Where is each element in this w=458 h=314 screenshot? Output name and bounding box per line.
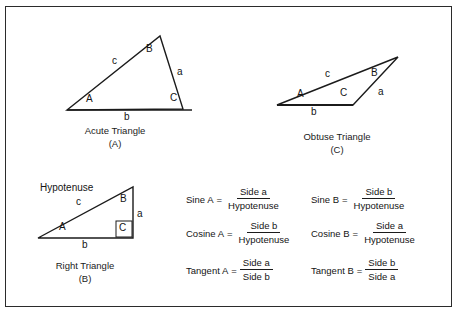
- formula-sine-b-denominator: Hypotenuse: [351, 199, 408, 212]
- formula-cosine-b-denominator: Hypotenuse: [361, 233, 418, 246]
- trigonometry-reference-figure: A B C c a b Acute Triangle (A) A B C c a…: [0, 0, 458, 314]
- formula-tangent-b-name: Tangent B: [311, 265, 354, 276]
- right-triangle-caption: Right Triangle: [30, 259, 140, 272]
- formula-tangent-a-name: Tangent A: [186, 265, 228, 276]
- formula-cosine-a-denominator: Hypotenuse: [236, 233, 293, 246]
- formula-cosine-b-fraction: Side a Hypotenuse: [361, 220, 418, 246]
- formula-sine-a-numerator: Side a: [237, 186, 270, 199]
- formula-tangent-b-equals: =: [357, 265, 363, 276]
- obtuse-vertex-label-b: B: [371, 67, 378, 78]
- acute-vertex-label-b: B: [146, 43, 153, 54]
- formula-cosine-b: Cosine B = Side a Hypotenuse: [311, 220, 418, 246]
- formula-tangent-b-numerator: Side b: [365, 257, 398, 270]
- formula-tangent-b: Tangent B = Side b Side a: [311, 257, 398, 283]
- acute-triangle-tag: (A): [60, 137, 170, 150]
- obtuse-triangle-caption: Obtuse Triangle: [282, 130, 392, 143]
- right-side-label-c: c: [76, 196, 81, 207]
- formula-sine-a-denominator: Hypotenuse: [225, 199, 282, 212]
- obtuse-side-label-c: c: [325, 68, 330, 79]
- formula-cosine-a: Cosine A = Side b Hypotenuse: [186, 220, 292, 246]
- formula-sine-a-equals: =: [216, 194, 222, 205]
- formula-cosine-a-numerator: Side b: [247, 220, 280, 233]
- right-vertex-label-a: A: [59, 221, 66, 232]
- obtuse-vertex-label-c: C: [340, 87, 347, 98]
- formula-cosine-b-numerator: Side a: [373, 220, 406, 233]
- acute-side-label-a: a: [177, 66, 183, 77]
- formula-cosine-b-equals: =: [353, 228, 359, 239]
- formula-sine-a-fraction: Side a Hypotenuse: [225, 186, 282, 212]
- formula-cosine-a-equals: =: [227, 228, 233, 239]
- right-vertex-label-b: B: [120, 193, 127, 204]
- formula-tangent-a: Tangent A = Side a Side b: [186, 257, 273, 283]
- formula-sine-b-equals: =: [342, 194, 348, 205]
- right-vertex-label-c: C: [119, 222, 126, 233]
- formula-tangent-a-numerator: Side a: [240, 257, 273, 270]
- formula-cosine-a-name: Cosine A: [186, 228, 224, 239]
- obtuse-side-label-a: a: [378, 86, 384, 97]
- acute-vertex-label-a: A: [86, 93, 93, 104]
- formula-tangent-b-fraction: Side b Side a: [365, 257, 398, 283]
- obtuse-side-label-b: b: [311, 106, 317, 117]
- formula-tangent-b-denominator: Side a: [365, 270, 398, 283]
- formula-tangent-a-equals: =: [231, 265, 237, 276]
- right-side-label-a: a: [137, 208, 143, 219]
- formula-tangent-a-denominator: Side b: [240, 270, 273, 283]
- right-side-label-b: b: [82, 239, 88, 250]
- acute-side-label-b: b: [124, 111, 130, 122]
- acute-side-label-c: c: [112, 55, 117, 66]
- acute-vertex-label-c: C: [170, 92, 177, 103]
- hypotenuse-label: Hypotenuse: [40, 182, 93, 193]
- formula-cosine-b-name: Cosine B: [311, 228, 350, 239]
- formula-tangent-a-fraction: Side a Side b: [240, 257, 273, 283]
- formula-cosine-a-fraction: Side b Hypotenuse: [236, 220, 293, 246]
- formula-sine-a-name: Sine A: [186, 194, 213, 205]
- formula-sine-b-name: Sine B: [311, 194, 339, 205]
- formula-sine-a: Sine A = Side a Hypotenuse: [186, 186, 282, 212]
- obtuse-triangle-tag: (C): [282, 143, 392, 156]
- formula-sine-b-fraction: Side b Hypotenuse: [351, 186, 408, 212]
- acute-triangle-caption: Acute Triangle: [60, 124, 170, 137]
- right-triangle-tag: (B): [30, 272, 140, 285]
- formula-sine-b-numerator: Side b: [362, 186, 395, 199]
- obtuse-vertex-label-a: A: [297, 88, 304, 99]
- formula-sine-b: Sine B = Side b Hypotenuse: [311, 186, 407, 212]
